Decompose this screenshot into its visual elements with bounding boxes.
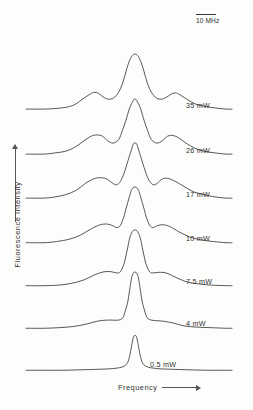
y-axis-label: Fluorescence Intensity [13, 150, 22, 300]
spectrum-trace [26, 335, 232, 370]
scale-bar: 10 MHz [196, 14, 216, 24]
power-label: 10 mW [186, 234, 210, 243]
scale-bar-label: 10 MHz [196, 17, 216, 24]
power-label: 4 mW [186, 319, 206, 328]
x-axis-label: Frequency [118, 383, 157, 392]
power-label: 35 mW [186, 101, 210, 110]
figure-panel: 35 mW26 mW17 mW10 mW7.5 mW4 mW0.5 mW 10 … [0, 0, 253, 410]
power-label: 7.5 mW [186, 277, 212, 286]
x-axis: Frequency [118, 383, 201, 392]
power-label: 26 mW [186, 146, 210, 155]
y-axis: Fluorescence Intensity [4, 150, 20, 320]
power-label: 17 mW [186, 190, 210, 199]
spectra-traces [0, 0, 253, 410]
power-label: 0.5 mW [150, 360, 176, 369]
scale-bar-line [196, 14, 216, 15]
x-axis-arrow-icon [196, 385, 201, 391]
x-axis-line [162, 387, 196, 388]
